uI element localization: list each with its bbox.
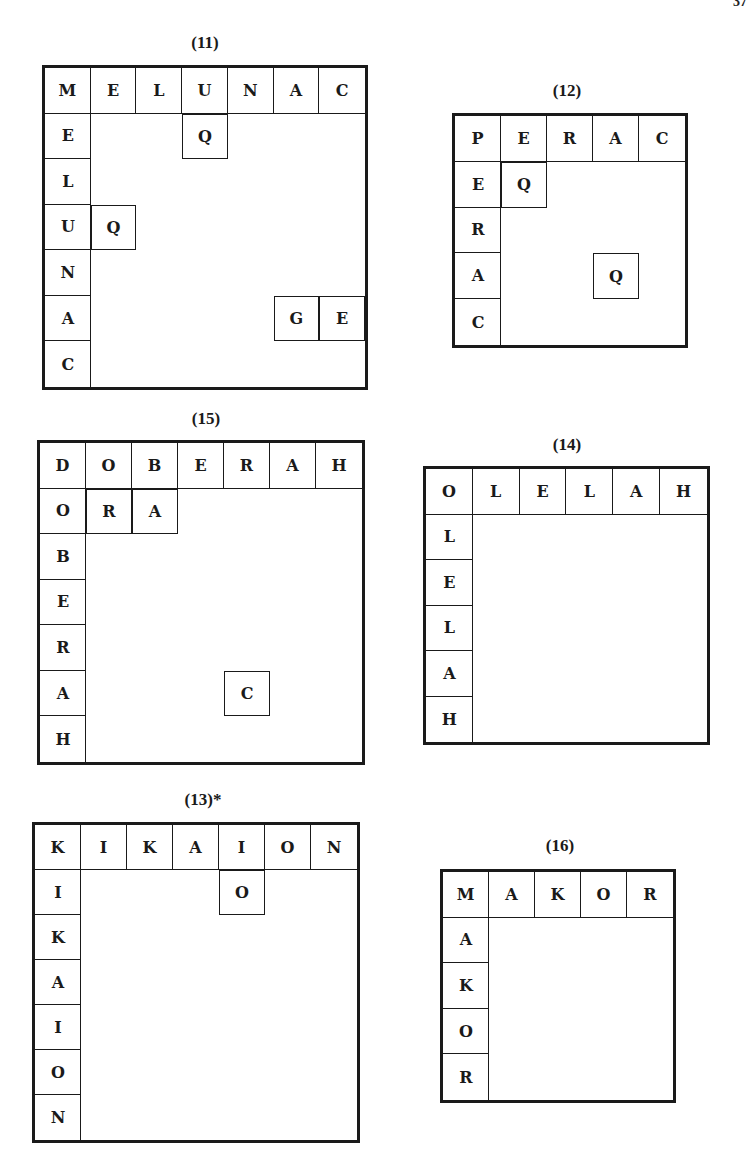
side-cell: C [45, 341, 91, 387]
header-cell: L [567, 469, 614, 515]
header-cell: A [613, 469, 660, 515]
word-grid-12: PERACERACQQ [452, 113, 688, 348]
side-cell: I [35, 1005, 81, 1050]
header-cell: A [270, 443, 316, 489]
side-cell: A [35, 960, 81, 1005]
side-cell: R [455, 208, 501, 254]
word-grid-11: MELUNACELUNACQQGE [42, 65, 368, 390]
side-cell: N [35, 1095, 81, 1140]
header-cell: E [520, 469, 567, 515]
corner-cell: K [35, 825, 81, 870]
side-cell: A [45, 296, 91, 342]
column-divider [472, 515, 473, 743]
puzzle-label-11: (11) [165, 33, 245, 53]
side-cell: E [455, 162, 501, 208]
puzzle-label-12: (12) [527, 81, 607, 101]
filled-cell: A [132, 489, 178, 535]
side-cell: K [35, 915, 81, 960]
header-cell: R [547, 116, 593, 162]
column-divider [80, 870, 81, 1140]
filled-cell: G [274, 296, 320, 342]
side-cell: E [45, 114, 91, 160]
word-grid-15: DOBERAHOBERAHRAC [37, 440, 365, 765]
word-grid-13: KIKAIONIKAIONO [32, 822, 360, 1143]
word-grid-16: MAKORAKOR [440, 869, 676, 1103]
side-cell: B [40, 534, 86, 580]
side-cell: R [40, 625, 86, 671]
header-cell: I [219, 825, 265, 870]
header-divider [473, 514, 707, 515]
corner-cell: P [455, 116, 501, 162]
filled-cell: Q [182, 114, 228, 160]
header-cell: U [182, 68, 228, 114]
side-cell: O [40, 489, 86, 535]
side-cell: E [40, 580, 86, 626]
puzzle-label-16: (16) [520, 836, 600, 856]
side-cell: H [426, 697, 473, 743]
header-cell: O [86, 443, 132, 489]
filled-cell: C [224, 671, 270, 717]
side-cell: E [426, 560, 473, 606]
header-cell: H [316, 443, 362, 489]
header-cell: A [489, 872, 535, 918]
header-cell: E [178, 443, 224, 489]
side-cell: N [45, 250, 91, 296]
header-cell: L [473, 469, 520, 515]
side-cell: L [426, 606, 473, 652]
side-cell: A [455, 253, 501, 299]
side-cell: O [35, 1050, 81, 1095]
side-cell: A [426, 651, 473, 697]
header-cell: N [228, 68, 274, 114]
side-cell: R [443, 1054, 489, 1100]
side-cell: A [40, 671, 86, 717]
header-cell: R [627, 872, 673, 918]
puzzle-label-14: (14) [527, 435, 607, 455]
side-cell: L [45, 159, 91, 205]
column-divider [488, 918, 489, 1100]
header-cell: C [319, 68, 365, 114]
filled-cell: Q [91, 205, 137, 251]
header-cell: N [311, 825, 357, 870]
side-cell: H [40, 716, 86, 762]
header-divider [91, 113, 365, 114]
side-cell: I [35, 870, 81, 915]
header-cell: A [173, 825, 219, 870]
header-cell: E [501, 116, 547, 162]
filled-cell: O [219, 870, 265, 915]
side-cell: U [45, 205, 91, 251]
filled-cell: R [86, 489, 132, 535]
puzzle-label-15: (15) [166, 409, 246, 429]
filled-cell: Q [593, 253, 639, 299]
page-number: 37 [717, 0, 747, 8]
header-cell: O [581, 872, 627, 918]
puzzle-label-13: (13)* [163, 790, 243, 810]
header-divider [489, 917, 673, 918]
header-cell: I [81, 825, 127, 870]
header-cell: B [132, 443, 178, 489]
header-cell: A [593, 116, 639, 162]
header-cell: R [224, 443, 270, 489]
corner-cell: D [40, 443, 86, 489]
word-grid-14: OLELAHLELAH [423, 466, 710, 745]
header-cell: O [265, 825, 311, 870]
header-cell: H [660, 469, 707, 515]
corner-cell: M [443, 872, 489, 918]
column-divider [90, 114, 91, 387]
header-cell: A [274, 68, 320, 114]
side-cell: O [443, 1009, 489, 1055]
filled-cell: E [319, 296, 365, 342]
side-cell: A [443, 918, 489, 964]
header-cell: E [91, 68, 137, 114]
corner-cell: O [426, 469, 473, 515]
header-cell: K [535, 872, 581, 918]
header-cell: C [639, 116, 685, 162]
side-cell: K [443, 963, 489, 1009]
header-cell: K [127, 825, 173, 870]
header-cell: L [136, 68, 182, 114]
side-cell: C [455, 299, 501, 345]
corner-cell: M [45, 68, 91, 114]
side-cell: L [426, 515, 473, 561]
filled-cell: Q [501, 162, 547, 208]
